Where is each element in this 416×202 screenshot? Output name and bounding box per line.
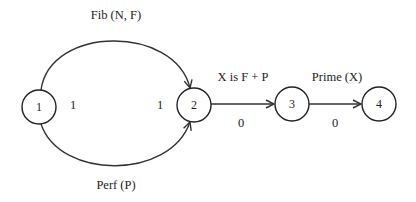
side-label-node2: 1	[157, 98, 163, 112]
node-3: 3	[275, 87, 309, 121]
edge-label-x-is-f-plus-p: X is F + P	[218, 70, 269, 84]
node-4-label: 4	[376, 97, 382, 111]
process-diagram: 1 2 3 4 Fib (N, F) Perf (P) X is F + P P…	[0, 0, 416, 202]
edge-label-prime: Prime (X)	[312, 70, 362, 84]
edge-perf-arc	[41, 122, 190, 166]
node-3-label: 3	[289, 97, 295, 111]
node-2-label: 2	[191, 98, 197, 112]
edge-weight-2-3: 0	[238, 116, 244, 130]
node-4: 4	[362, 87, 396, 121]
node-1-label: 1	[36, 100, 42, 114]
node-2: 2	[177, 88, 211, 122]
edge-label-fib: Fib (N, F)	[91, 8, 141, 22]
edge-fib-arc	[41, 41, 190, 90]
node-1: 1	[22, 90, 56, 124]
edge-label-perf: Perf (P)	[96, 178, 135, 192]
edge-weight-3-4: 0	[332, 116, 338, 130]
side-label-node1: 1	[70, 98, 76, 112]
